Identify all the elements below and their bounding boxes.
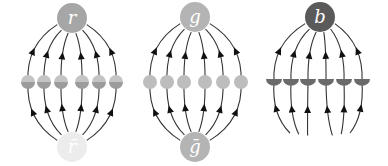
- arrow-head-icon: [216, 49, 225, 58]
- arrow-head-icon: [58, 103, 66, 111]
- arrow-head-icon: [106, 46, 115, 56]
- arrow-head-icon: [216, 105, 225, 114]
- arrow-head-icon: [28, 107, 37, 117]
- color-flux-diagram: rr̄ gḡ b: [0, 0, 388, 166]
- arrow-head-icon: [92, 50, 101, 59]
- top-charge-node: g: [180, 2, 210, 32]
- gluon-dot-icon: [216, 75, 230, 89]
- top-charge-node: r: [57, 3, 87, 33]
- top-node-label: g: [189, 6, 201, 27]
- arrow-head-icon: [200, 51, 208, 59]
- arrow-head-icon: [165, 105, 174, 114]
- gluon-dot-icon: [177, 75, 191, 89]
- gluon-dot-icon: [198, 75, 212, 89]
- arrow-head-icon: [341, 105, 348, 113]
- arrow-head-icon: [166, 49, 175, 58]
- half-shaded-dot-icon: [37, 75, 51, 89]
- arrow-head-icon: [181, 51, 189, 59]
- arrow-head-icon: [304, 105, 311, 113]
- arrow-head-icon: [200, 103, 208, 111]
- half-disc-icon: [336, 79, 352, 86]
- half-shaded-dot-icon: [92, 75, 106, 89]
- half-disc-icon: [300, 79, 316, 86]
- arrow-head-icon: [92, 105, 101, 114]
- arrow-head-icon: [290, 49, 299, 58]
- arrow-head-icon: [288, 104, 296, 112]
- half-shaded-dot-icon: [109, 75, 123, 89]
- blue-charge-diagram: b: [266, 2, 370, 135]
- gluon-dot-icon: [143, 75, 157, 89]
- red-charge-diagram: rr̄: [21, 3, 123, 162]
- bottom-anticharge-node: ḡ: [180, 132, 210, 162]
- half-shaded-dot-icon: [21, 75, 35, 89]
- arrow-head-icon: [151, 46, 160, 56]
- arrow-head-icon: [322, 51, 329, 59]
- top-charge-node: b: [305, 2, 335, 32]
- gluon-dot-icon: [160, 75, 174, 89]
- arrow-head-icon: [77, 103, 85, 111]
- half-disc-icon: [283, 79, 299, 86]
- half-disc-icon: [266, 79, 282, 86]
- half-shaded-dot-icon: [75, 75, 89, 89]
- top-node-label: r: [68, 7, 78, 28]
- arrow-head-icon: [107, 107, 116, 117]
- arrow-head-icon: [42, 105, 51, 114]
- arrow-head-icon: [338, 49, 346, 58]
- half-disc-icon: [318, 79, 334, 86]
- bottom-node-label: ḡ: [189, 136, 201, 157]
- arrow-head-icon: [324, 105, 332, 113]
- arrow-head-icon: [150, 107, 159, 117]
- arrow-head-icon: [77, 52, 85, 60]
- gluon-dot-icon: [234, 75, 248, 89]
- arrow-head-icon: [353, 46, 362, 55]
- green-charge-diagram: gḡ: [143, 2, 248, 162]
- arrow-head-icon: [231, 46, 240, 56]
- top-node-label: b: [314, 6, 326, 27]
- arrow-head-icon: [58, 51, 66, 59]
- arrow-head-icon: [275, 46, 284, 56]
- arrow-head-icon: [43, 49, 52, 58]
- half-disc-icon: [354, 79, 370, 86]
- arrow-head-icon: [272, 104, 280, 113]
- arrow-head-icon: [29, 46, 38, 56]
- arrow-head-icon: [231, 107, 240, 117]
- bottom-node-label: r̄: [68, 136, 78, 157]
- arrow-head-icon: [181, 103, 189, 111]
- bottom-anticharge-node: r̄: [57, 132, 87, 162]
- half-shaded-dot-icon: [54, 75, 68, 89]
